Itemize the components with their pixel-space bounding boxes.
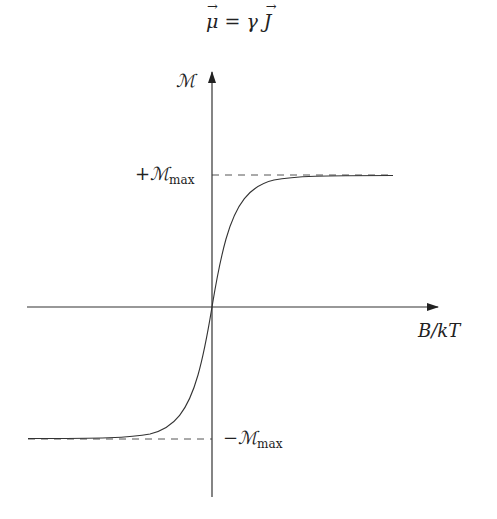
m-symbol: ℳ [238, 427, 257, 448]
vector-arrow-icon: → [266, 0, 277, 14]
max-subscript: max [169, 173, 194, 187]
m-symbol: ℳ [150, 163, 169, 184]
minus-max-label: −ℳmax [223, 427, 282, 448]
mu-vector: μ→ [206, 10, 224, 32]
plus-max-label: +ℳmax [135, 163, 194, 184]
minus-sign: − [223, 427, 238, 448]
j-vector: J→ [264, 10, 272, 32]
max-subscript: max [257, 437, 282, 451]
equals-sign: = [224, 10, 246, 32]
plus-sign: + [135, 163, 150, 184]
vector-arrow-icon: → [207, 0, 218, 14]
gamma-symbol: γ [246, 10, 257, 32]
equation-title: μ→ = γ J→ [206, 10, 271, 32]
y-axis-label: ℳ [176, 70, 195, 91]
x-axis-label: B/kT [418, 320, 460, 341]
